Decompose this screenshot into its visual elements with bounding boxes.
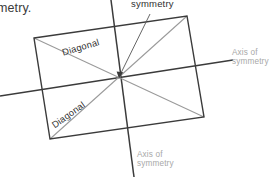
axis-label-right-line2: symmetry bbox=[232, 57, 269, 66]
caption-fragment: metry. bbox=[0, 1, 31, 15]
callout-label-symmetry: symmetry bbox=[131, 0, 174, 10]
diagonal-bottom-left-to-top-right-line bbox=[50, 16, 187, 139]
axis-label-right-line1: Axis of bbox=[232, 48, 258, 57]
axis-of-symmetry-label-bottom: Axis of symmetry bbox=[137, 150, 174, 169]
axis-label-bottom-line2: symmetry bbox=[137, 159, 174, 168]
axis-of-symmetry-label-right: Axis of symmetry bbox=[232, 48, 269, 67]
diagram-canvas: metry. symmetry Axis of symmetry Axis of… bbox=[0, 0, 277, 177]
axis-label-bottom-line1: Axis of bbox=[137, 150, 163, 159]
